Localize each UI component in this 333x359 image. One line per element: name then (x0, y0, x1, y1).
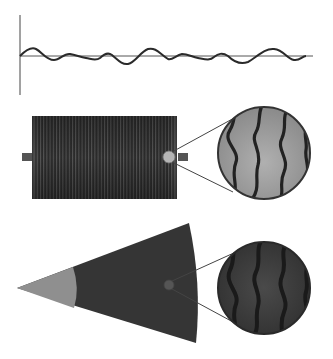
fan-tip-region (17, 267, 77, 308)
waveform-panel (20, 15, 313, 95)
fan-magnified-inset (218, 238, 314, 340)
coil-panel (22, 100, 312, 202)
diagram-canvas (0, 0, 333, 359)
left-terminal-tab (22, 153, 32, 161)
right-terminal-tab (178, 153, 188, 161)
coil-magnified-inset (218, 100, 312, 202)
fan-panel (17, 223, 314, 343)
fan-magnify-marker (164, 280, 174, 290)
coil-vertical-shading (32, 116, 177, 199)
coil-magnify-marker (163, 151, 175, 163)
